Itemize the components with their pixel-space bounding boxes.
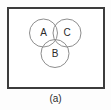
figure-frame-border bbox=[7, 7, 105, 89]
figure-caption: (a) bbox=[0, 92, 111, 106]
figure-container: A C B (a) bbox=[0, 0, 111, 110]
